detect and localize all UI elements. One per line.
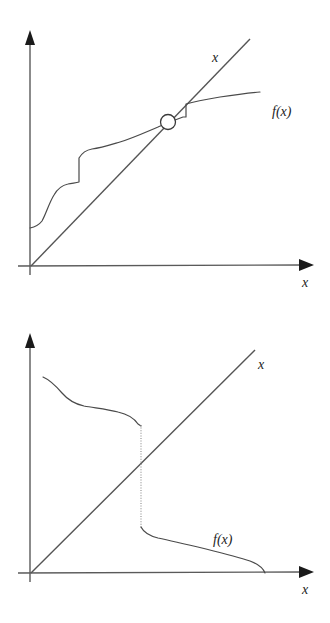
fx-curve-top bbox=[30, 92, 260, 228]
figure-top: x f(x) x bbox=[0, 0, 330, 300]
fx-curve-bottom-lower bbox=[141, 527, 265, 573]
x-axis-label-top: x bbox=[301, 275, 309, 290]
top-chart-svg: x f(x) x bbox=[0, 0, 330, 300]
top-y-axis bbox=[25, 30, 35, 275]
figure-bottom: x f(x) x bbox=[0, 300, 330, 623]
x-axis-arrowhead bbox=[299, 259, 314, 271]
figure-page: x f(x) x x bbox=[0, 0, 330, 623]
top-x-axis bbox=[18, 259, 314, 271]
y-axis-arrowhead bbox=[25, 30, 35, 45]
identity-line-label-bottom: x bbox=[257, 357, 265, 372]
fixed-point-marker-top bbox=[161, 115, 176, 130]
x-axis-arrowhead bbox=[299, 566, 314, 578]
curve-label-top: f(x) bbox=[272, 104, 292, 120]
bottom-y-axis bbox=[25, 333, 35, 582]
identity-line-label-top: x bbox=[211, 50, 219, 65]
y-axis-arrowhead bbox=[25, 333, 35, 348]
curve-label-bottom: f(x) bbox=[213, 532, 233, 548]
bottom-x-axis bbox=[18, 566, 314, 578]
fx-curve-bottom-upper bbox=[43, 377, 141, 426]
x-axis-label-bottom: x bbox=[301, 582, 309, 597]
identity-line-top bbox=[31, 39, 250, 266]
bottom-chart-svg: x f(x) x bbox=[0, 300, 330, 623]
